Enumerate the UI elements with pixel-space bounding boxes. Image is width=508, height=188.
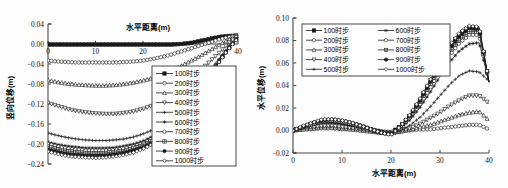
svg-text:900时步: 900时步 <box>396 55 422 64</box>
svg-text:0.02: 0.02 <box>276 104 289 113</box>
svg-text:0.06: 0.06 <box>276 59 289 68</box>
svg-text:300时步: 300时步 <box>175 88 201 97</box>
svg-text:30: 30 <box>436 156 444 165</box>
legend: 100时步200时步300时步400时步500时步600时步700时步800时步… <box>152 66 236 166</box>
svg-text:−0.08: −0.08 <box>27 80 44 89</box>
svg-text:水平距离(m): 水平距离(m) <box>126 22 171 32</box>
svg-text:500时步: 500时步 <box>324 65 350 74</box>
chart-horizontal-displacement: 0.100.080.060.040.020.00−0.02010203040水平… <box>254 0 508 188</box>
svg-text:200时步: 200时步 <box>175 79 201 88</box>
chart-right-canvas: 0.100.080.060.040.020.00−0.02010203040水平… <box>254 0 508 188</box>
chart-left-canvas: 0.040.00−0.04−0.08−0.12−0.16−0.20−0.2401… <box>0 0 254 188</box>
svg-text:800时步: 800时步 <box>396 45 422 54</box>
svg-text:0: 0 <box>291 156 295 165</box>
svg-text:−0.12: −0.12 <box>27 100 44 109</box>
svg-text:0.04: 0.04 <box>276 81 289 90</box>
svg-text:100时步: 100时步 <box>175 69 201 78</box>
svg-text:100时步: 100时步 <box>324 26 350 35</box>
svg-text:1000时步: 1000时步 <box>175 156 205 165</box>
svg-text:40: 40 <box>234 47 242 56</box>
svg-text:900时步: 900时步 <box>175 147 201 156</box>
svg-text:700时步: 700时步 <box>175 127 201 136</box>
svg-text:400时步: 400时步 <box>324 55 350 64</box>
svg-text:0.04: 0.04 <box>31 20 44 29</box>
svg-text:−0.24: −0.24 <box>27 160 44 169</box>
svg-text:500时步: 500时步 <box>175 108 201 117</box>
svg-text:600时步: 600时步 <box>396 26 422 35</box>
legend: 100时步200时步300时步400时步500时步600时步700时步800时步… <box>302 24 450 76</box>
svg-text:水平位移(m): 水平位移(m) <box>256 66 266 111</box>
svg-text:10: 10 <box>338 156 346 165</box>
svg-text:−0.04: −0.04 <box>27 60 44 69</box>
svg-text:40: 40 <box>485 156 493 165</box>
svg-text:20: 20 <box>139 47 147 56</box>
svg-text:800时步: 800时步 <box>175 137 201 146</box>
svg-text:600时步: 600时步 <box>175 118 201 127</box>
svg-text:700时步: 700时步 <box>396 36 422 45</box>
svg-text:−0.02: −0.02 <box>272 149 289 158</box>
svg-text:0.00: 0.00 <box>276 126 289 135</box>
svg-text:0.10: 0.10 <box>276 14 289 23</box>
svg-text:0.00: 0.00 <box>31 40 44 49</box>
svg-text:300时步: 300时步 <box>324 45 350 54</box>
svg-text:400时步: 400时步 <box>175 98 201 107</box>
svg-text:−0.16: −0.16 <box>27 120 44 129</box>
figure-container: 0.040.00−0.04−0.08−0.12−0.16−0.20−0.2401… <box>0 0 508 188</box>
svg-text:0.08: 0.08 <box>276 36 289 45</box>
svg-text:200时步: 200时步 <box>324 36 350 45</box>
chart-vertical-displacement: 0.040.00−0.04−0.08−0.12−0.16−0.20−0.2401… <box>0 0 254 188</box>
svg-text:1000时步: 1000时步 <box>396 65 426 74</box>
svg-text:水平距离(m): 水平距离(m) <box>372 168 417 178</box>
svg-text:0: 0 <box>46 47 50 56</box>
svg-text:20: 20 <box>387 156 395 165</box>
svg-text:−0.20: −0.20 <box>27 140 44 149</box>
x-axis-ticks: 010203040 <box>291 150 493 165</box>
svg-text:10: 10 <box>92 47 100 56</box>
svg-text:竖向位移(m): 竖向位移(m) <box>5 76 15 121</box>
